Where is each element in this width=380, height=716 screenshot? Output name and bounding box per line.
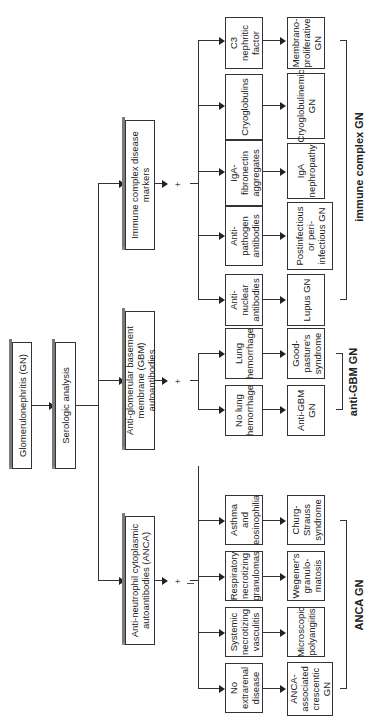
arrow-icon <box>280 685 286 693</box>
gbm-diagnosis: Good-pasture's syndrome <box>287 328 325 379</box>
category-anca: Anti-neutrophil cytoplasmic autoantibodi… <box>125 516 155 645</box>
immune-diagnosis: Cryoglobulinemic GN <box>287 73 325 139</box>
arrow-icon <box>280 517 286 525</box>
connector <box>190 183 198 184</box>
connector <box>263 171 281 172</box>
anca-finding: Systemic necrotizing vasculitis <box>225 607 263 657</box>
immune-branch-bar <box>198 40 199 300</box>
connector <box>98 580 119 581</box>
branch-bar <box>98 183 99 581</box>
arrow-icon <box>280 406 286 414</box>
anca-finding: No extrarenal disease <box>225 663 263 713</box>
anca-gn-label: ANCA GN <box>353 555 365 655</box>
connector <box>198 235 220 236</box>
connector <box>263 688 281 689</box>
connector <box>263 105 281 106</box>
connector <box>32 405 49 406</box>
connector <box>98 380 119 381</box>
gbm-finding: No lung hemorrhage <box>225 385 263 436</box>
connector <box>263 409 281 410</box>
connector <box>198 105 220 106</box>
category-gbm: Anti-glomerular basement membrane (GBM) … <box>125 311 155 450</box>
connector <box>198 40 220 41</box>
connector <box>190 580 198 581</box>
dash <box>187 583 194 584</box>
gbm-branch-bar <box>198 353 199 410</box>
arrow-icon <box>162 180 168 188</box>
connector <box>263 40 281 41</box>
root-label: Glomerulonephritis (GN) <box>17 354 28 457</box>
arrow-icon <box>280 296 286 304</box>
connector <box>198 520 220 521</box>
anca-diagnosis: ANCA-associated crescentic GN <box>287 662 333 716</box>
connector <box>198 299 220 300</box>
bracket <box>342 353 343 410</box>
arrow-icon <box>280 232 286 240</box>
connector <box>263 299 281 300</box>
immune-finding: Anti-pathogen antibodies <box>225 206 263 266</box>
immune-finding: Anti-nuclear antibodies <box>225 274 263 326</box>
bracket <box>346 520 347 689</box>
arrow-icon <box>280 573 286 581</box>
plus-marker: + <box>174 379 183 384</box>
connector <box>198 353 220 354</box>
anca-diagnosis: Churg-Strauss syndrome <box>287 495 325 545</box>
arrow-icon <box>280 37 286 45</box>
gbm-finding: Lung hemorrhage <box>225 328 263 379</box>
immune-complex-gn-label: immune complex GN <box>353 102 365 232</box>
plus-marker: + <box>174 182 183 187</box>
bracket <box>336 353 342 354</box>
connector <box>98 183 119 184</box>
connector <box>190 380 198 381</box>
root-box: Glomerulonephritis (GN) <box>12 342 32 469</box>
connector <box>263 235 281 236</box>
arrow-icon <box>162 577 168 585</box>
arrow-icon <box>280 102 286 110</box>
anca-finding: Respiratory necrotizing granulomas <box>225 551 263 601</box>
connector <box>198 632 220 633</box>
anca-diagnosis: Microscopic polyangiitis <box>287 607 325 657</box>
arrow-icon <box>280 629 286 637</box>
connector <box>198 171 220 172</box>
connector <box>263 520 281 521</box>
anca-finding: Asthma and eosinophilia <box>225 495 263 545</box>
connector <box>263 576 281 577</box>
connector <box>198 688 220 689</box>
category-immune: Immune complex disease markers <box>125 120 155 250</box>
connector <box>263 632 281 633</box>
bracket <box>346 40 347 300</box>
bracket <box>340 40 346 41</box>
immune-diagnosis: IgA nephropathy <box>287 143 325 199</box>
immune-diagnosis: Membrano-proliferative GN <box>287 17 325 69</box>
arrow-icon <box>162 377 168 385</box>
connector <box>198 409 220 410</box>
immune-diagnosis: Lupus GN <box>287 274 325 326</box>
anca-diagnosis: Wegener's granulo-matosis <box>287 551 325 601</box>
anca-branch-bar <box>198 466 199 689</box>
arrow-icon <box>280 350 286 358</box>
serologic-label: Serologic analysis <box>60 367 71 444</box>
bracket <box>340 520 346 521</box>
connector <box>263 353 281 354</box>
arrow-icon <box>280 168 286 176</box>
plus-marker: + <box>174 579 183 584</box>
immune-finding: C3 nephritic factor <box>225 17 263 69</box>
gbm-diagnosis: Anti-GBM GN <box>287 385 325 436</box>
anti-gbm-gn-label: anti-GBM GN <box>347 332 359 432</box>
immune-finding: IgA-fibronectin aggregates <box>225 140 263 206</box>
serologic-box: Serologic analysis <box>55 342 76 469</box>
immune-diagnosis: Postinfectious or peri-infectious GN <box>287 202 333 270</box>
connector <box>76 405 98 406</box>
immune-finding: Cryoglobulins <box>225 74 263 140</box>
connector <box>198 576 220 577</box>
